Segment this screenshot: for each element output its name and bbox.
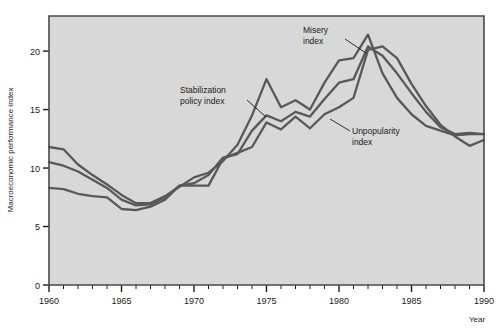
y-axis-title: Macroeconomic performance index bbox=[6, 88, 15, 213]
y-tick-label: 5 bbox=[35, 222, 40, 232]
y-tick-label: 20 bbox=[30, 47, 40, 57]
annotation-stabilization-line2: policy index bbox=[180, 96, 225, 106]
line-chart: 05101520 1960196519701975198019851990 Ma… bbox=[0, 0, 504, 329]
x-tick-label: 1985 bbox=[401, 296, 421, 306]
x-tick-label: 1975 bbox=[256, 296, 276, 306]
annotation-unpopularity-line1: Unpopularity bbox=[352, 126, 400, 136]
chart-figure: 05101520 1960196519701975198019851990 Ma… bbox=[0, 0, 504, 329]
annotation-misery-line1: Misery bbox=[303, 25, 329, 35]
x-tick-label: 1970 bbox=[184, 296, 204, 306]
y-tick-label: 15 bbox=[30, 105, 40, 115]
x-tick-label: 1960 bbox=[39, 296, 59, 306]
x-axis-title: Year bbox=[469, 315, 486, 324]
annotation-unpopularity-line2: index bbox=[352, 137, 373, 147]
x-tick-label: 1980 bbox=[329, 296, 349, 306]
y-tick-label: 10 bbox=[30, 164, 40, 174]
y-tick-label: 0 bbox=[35, 281, 40, 291]
x-tick-label: 1990 bbox=[474, 296, 494, 306]
annotation-stabilization-line1: Stabilization bbox=[180, 85, 226, 95]
x-tick-label: 1965 bbox=[111, 296, 131, 306]
annotation-misery-line2: index bbox=[303, 36, 324, 46]
plot-area-background bbox=[49, 16, 484, 285]
